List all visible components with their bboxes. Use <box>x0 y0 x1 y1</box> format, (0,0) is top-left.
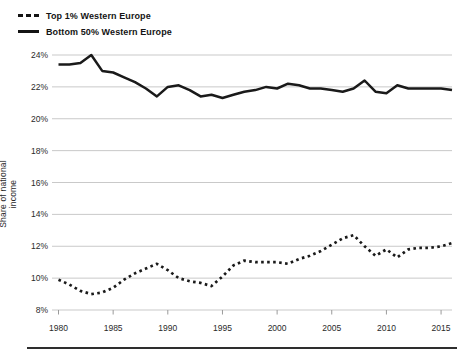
chart-container: Top 1% Western Europe Bottom 50% Western… <box>0 0 461 364</box>
legend-label-top1: Top 1% Western Europe <box>46 11 151 21</box>
x-tick-label: 2010 <box>377 323 396 333</box>
x-tick-label: 1980 <box>49 323 68 333</box>
legend-item-top1: Top 1% Western Europe <box>18 10 172 21</box>
chart-svg: 24%22%20%18%16%14%12%10%8%19801985199019… <box>0 0 461 364</box>
y-axis-labels: 24%22%20%18%16%14%12%10%8% <box>31 50 48 315</box>
y-tick-label: 18% <box>31 146 48 156</box>
solid-line-icon <box>18 30 39 33</box>
y-axis-title: Share of national income <box>0 146 18 242</box>
y-tick-label: 20% <box>31 114 48 124</box>
x-tick-label: 2015 <box>432 323 451 333</box>
x-tick-label: 1990 <box>158 323 177 333</box>
y-tick-label: 10% <box>31 273 48 283</box>
series-line-1 <box>59 55 453 98</box>
y-tick-label: 8% <box>36 305 49 315</box>
series-line-0 <box>59 235 453 294</box>
x-tick-label: 2000 <box>268 323 287 333</box>
y-tick-label: 12% <box>31 241 48 251</box>
chart-legend: Top 1% Western Europe Bottom 50% Western… <box>18 10 172 37</box>
y-tick-label: 16% <box>31 178 48 188</box>
dashed-line-icon <box>18 14 39 17</box>
gridlines-group <box>52 55 452 310</box>
legend-label-bottom50: Bottom 50% Western Europe <box>46 27 172 37</box>
y-tick-label: 24% <box>31 50 48 60</box>
y-tick-label: 14% <box>31 209 48 219</box>
x-tick-label: 2005 <box>322 323 341 333</box>
legend-item-bottom50: Bottom 50% Western Europe <box>18 26 172 37</box>
x-tick-label: 1995 <box>213 323 232 333</box>
y-tick-label: 22% <box>31 82 48 92</box>
x-tick-label: 1985 <box>104 323 123 333</box>
x-axis-group: 19801985199019952000200520102015 <box>49 310 451 333</box>
